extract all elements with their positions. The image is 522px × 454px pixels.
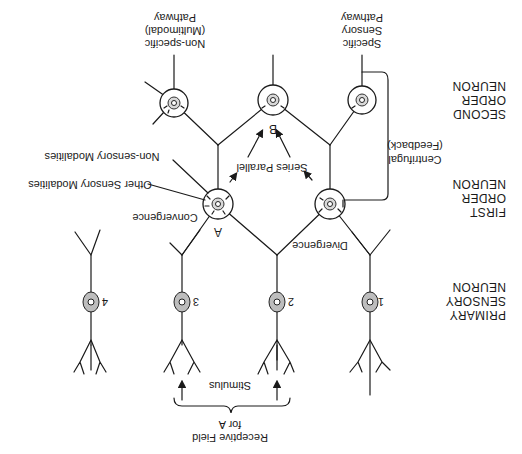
svg-text:Pathway: Pathway [340,12,383,24]
second-order-neuron-right [348,55,376,114]
receptive-field-brace [174,398,290,413]
second-order-neuron-left [145,55,188,124]
series-arrow-right-icon [277,131,290,157]
svg-text:ORDER: ORDER [461,93,506,107]
svg-text:NEURON: NEURON [452,177,506,191]
neuron-B-label: B [269,122,277,136]
parallel-arrow-A-icon [230,174,236,182]
level-label-second-order: SECOND ORDER NEURON [452,79,506,121]
primary-neuron-1-label: 1 [378,296,384,308]
svg-text:Specific: Specific [342,38,381,50]
sensory-pathway-diagram: SECOND ORDER NEURON FIRST ORDER NEURON P… [0,0,522,454]
neuron-A-label: A [214,225,222,239]
receptive-field-label: Receptive Field for A [192,419,268,444]
level-label-first-order: FIRST ORDER NEURON [452,177,506,219]
non-sensory-modalities-label: Non-sensory Modalities [44,151,159,163]
svg-text:NEURON: NEURON [452,79,506,93]
svg-text:Non-specific: Non-specific [144,38,205,50]
other-sensory-modalities-label: Other Sensory Modalities [28,179,152,191]
svg-text:for A: for A [218,419,241,431]
primary-neuron-2-label: 2 [288,296,294,308]
other-sensory-input-line [148,184,205,200]
level-label-primary-sensory: PRIMARY SENSORY NEURON [445,280,506,322]
convergence-label: Convergence [132,212,197,224]
centrifugal-feedback-label: Centrifugal (Feedback) [387,140,443,166]
series-arrow-left-icon [248,131,262,157]
svg-text:Sensory: Sensory [341,25,382,37]
svg-text:SECOND: SECOND [453,107,506,121]
primary-neuron-3-label: 3 [193,296,199,308]
svg-text:Pathway: Pathway [153,12,196,24]
svg-text:Centrifugal: Centrifugal [388,154,441,166]
svg-text:(Feedback): (Feedback) [387,140,443,152]
primary-neuron-4 [74,230,106,374]
first-order-neuron-A [203,145,233,219]
primary-neuron-2 [258,255,294,374]
second-order-neuron-B [258,55,288,115]
non-sensory-input-line [173,160,208,193]
primary-neuron-4-label: 4 [102,296,108,308]
svg-text:SENSORY: SENSORY [445,294,506,308]
svg-text:(Multimodal): (Multimodal) [145,25,206,37]
svg-text:NEURON: NEURON [452,280,506,294]
svg-text:FIRST: FIRST [469,205,506,219]
svg-text:PRIMARY: PRIMARY [449,308,506,322]
divergence-label: Divergence [292,240,348,252]
diagram-canvas: SECOND ORDER NEURON FIRST ORDER NEURON P… [0,0,522,454]
svg-text:ORDER: ORDER [461,191,506,205]
series-parallel-label: Series Parallel [237,162,308,174]
nonspecific-pathway-label: Non-specific (Multimodal) Pathway [144,12,205,50]
stimulus-label: Stimulus [208,380,251,392]
specific-sensory-pathway-label: Specific Sensory Pathway [340,12,383,50]
first-order-neuron-right [315,145,345,219]
svg-text:Receptive Field: Receptive Field [192,432,268,444]
